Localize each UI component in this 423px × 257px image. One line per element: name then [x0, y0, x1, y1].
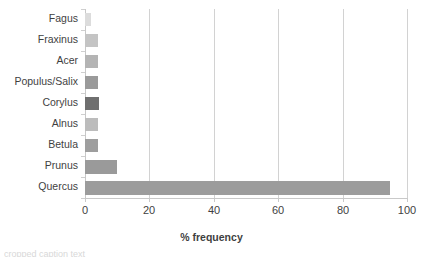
bar-acer [85, 55, 98, 68]
x-tick-mark-60 [278, 198, 279, 202]
bar-row [85, 160, 408, 174]
bar-fraxinus [85, 34, 98, 47]
bar-alnus [85, 118, 98, 131]
category-label-corylus: Corylus [42, 96, 78, 108]
x-tick-label-100: 100 [398, 204, 416, 216]
bar-row [85, 97, 408, 110]
bar-fagus [85, 13, 91, 26]
x-tick-label-60: 60 [272, 204, 284, 216]
category-label-acer: Acer [56, 54, 78, 66]
bar-row [85, 55, 408, 68]
x-tick-mark-0 [85, 198, 86, 202]
category-label-populus-salix: Populus/Salix [14, 75, 78, 87]
x-tick-mark-20 [149, 198, 150, 202]
x-tick-label-0: 0 [82, 204, 88, 216]
bar-row [85, 139, 408, 152]
bar-row [85, 13, 408, 26]
bar-row [85, 181, 408, 195]
bar-betula [85, 139, 98, 152]
bar-populus-salix [85, 76, 98, 89]
x-tick-label-80: 80 [337, 204, 349, 216]
bar-corylus [85, 97, 99, 110]
bar-row [85, 118, 408, 131]
x-tick-label-20: 20 [143, 204, 155, 216]
bar-prunus [85, 160, 117, 174]
x-axis-line [85, 198, 408, 199]
category-axis-labels: Fagus Fraxinus Acer Populus/Salix Corylu… [0, 9, 78, 198]
category-label-fraxinus: Fraxinus [38, 33, 78, 45]
x-tick-mark-100 [407, 198, 408, 202]
bar-row [85, 34, 408, 47]
bar-row [85, 76, 408, 89]
category-label-fagus: Fagus [49, 12, 78, 24]
x-axis-title: % frequency [0, 231, 423, 243]
bar-chart: Fagus Fraxinus Acer Populus/Salix Corylu… [0, 0, 423, 257]
bar-quercus [85, 181, 390, 195]
x-tick-label-40: 40 [208, 204, 220, 216]
plot-area [85, 9, 408, 198]
x-tick-mark-40 [214, 198, 215, 202]
x-axis-tick-labels: 0 20 40 60 80 100 [0, 204, 423, 220]
x-tick-mark-80 [343, 198, 344, 202]
category-label-betula: Betula [48, 138, 78, 150]
cropped-caption: cropped caption text [4, 249, 214, 257]
category-label-prunus: Prunus [45, 159, 78, 171]
category-label-quercus: Quercus [38, 180, 78, 192]
category-label-alnus: Alnus [52, 117, 78, 129]
